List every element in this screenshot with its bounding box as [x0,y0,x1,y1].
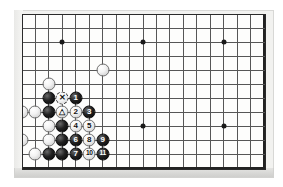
grid-line-vertical [263,14,264,169]
go-stone-white-10[interactable]: 10 [83,148,96,161]
go-stone-white[interactable] [22,134,29,147]
move-number-label: 1 [74,94,78,102]
grid-line-vertical [237,14,238,169]
go-board-surface[interactable]: ✕1△234568971011 [22,14,265,169]
grid-line-vertical [129,14,130,169]
go-stone-white[interactable] [42,120,55,133]
go-stone-white[interactable] [22,106,29,119]
board-plank-front-edge [14,168,274,178]
x-mark-icon: ✕ [59,94,66,102]
go-stone-white-2[interactable]: 2 [69,106,82,119]
move-number-label: 11 [100,150,106,157]
move-number-label: 10 [86,150,93,157]
go-stone-black[interactable] [56,120,69,133]
go-stone-black-1[interactable]: 1 [69,92,82,105]
go-stone-white-✕[interactable]: ✕ [56,92,69,105]
go-diagram-root: ✕1△234568971011 [0,0,283,187]
go-stone-white[interactable] [42,78,55,91]
grid-line-vertical [196,14,197,169]
grid-line-horizontal [22,84,265,85]
grid-line-horizontal [22,28,265,29]
move-number-label: 4 [74,122,78,130]
grid-line-horizontal [22,56,265,57]
go-stone-white[interactable] [42,134,55,147]
move-number-label: 9 [100,136,104,144]
go-stone-white[interactable] [29,106,42,119]
go-stone-black-7[interactable]: 7 [69,148,82,161]
star-point [221,40,226,45]
star-point [221,124,226,129]
go-stone-black[interactable] [56,134,69,147]
go-stone-white[interactable] [29,148,42,161]
go-stone-white-8[interactable]: 8 [83,134,96,147]
go-stone-black[interactable] [56,148,69,161]
move-number-label: 8 [87,136,91,144]
grid-line-vertical [223,14,224,169]
grid-line-bottom-edge [22,167,265,168]
star-point [141,124,146,129]
grid-line-horizontal [22,70,265,71]
go-stone-black-6[interactable]: 6 [69,134,82,147]
go-stone-white-4[interactable]: 4 [69,120,82,133]
grid-line-vertical [183,14,184,169]
move-number-label: 5 [87,122,91,130]
go-stone-white-5[interactable]: 5 [83,120,96,133]
grid-line-vertical [250,14,251,169]
grid-line-vertical [156,14,157,169]
move-number-label: 2 [74,108,78,116]
grid-line-vertical [35,14,36,169]
star-point [60,40,65,45]
go-stone-black-3[interactable]: 3 [83,106,96,119]
go-stone-black-11[interactable]: 11 [96,148,109,161]
go-stone-white[interactable] [96,64,109,77]
grid-line-vertical [210,14,211,169]
go-stone-black[interactable] [42,106,55,119]
move-number-label: 6 [74,136,78,144]
go-stone-black-9[interactable]: 9 [96,134,109,147]
go-stone-black[interactable] [42,92,55,105]
go-stone-white-△[interactable]: △ [56,106,69,119]
go-stone-black[interactable] [42,148,55,161]
star-point [141,40,146,45]
grid-line-vertical [116,14,117,169]
move-number-label: 7 [74,150,78,158]
move-number-label: 3 [87,108,91,116]
grid-line-vertical [143,14,144,169]
grid-line-vertical [169,14,170,169]
triangle-mark-icon: △ [59,108,65,116]
grid-line-horizontal [22,14,265,15]
